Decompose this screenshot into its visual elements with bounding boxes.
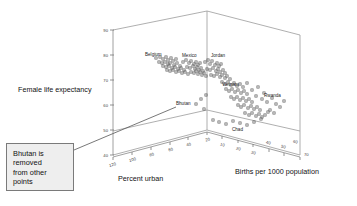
data-point xyxy=(199,62,201,64)
z-axis-births: 10 20 30 40 50 60 70 Births per 1000 pop… xyxy=(207,132,319,176)
data-point xyxy=(204,61,206,63)
data-point xyxy=(166,69,168,71)
data-point xyxy=(225,88,227,90)
z-tick-20: 20 xyxy=(235,146,241,152)
data-point xyxy=(210,74,212,76)
point-label-mexico: Mexico xyxy=(182,53,197,58)
data-point xyxy=(261,98,263,100)
data-point xyxy=(264,114,266,116)
data-point xyxy=(236,96,238,98)
data-point xyxy=(283,100,285,102)
data-point xyxy=(207,59,209,61)
plot-box-frame xyxy=(113,11,300,155)
x-axis-title: Percent urban xyxy=(118,174,163,183)
y-tick-80: 80 xyxy=(103,53,108,58)
data-point xyxy=(221,74,223,76)
callout-line-4: points xyxy=(13,177,67,186)
x-tick-60: 60 xyxy=(168,146,174,152)
data-point xyxy=(162,65,164,67)
data-point xyxy=(251,112,253,114)
data-point xyxy=(228,90,230,92)
data-point xyxy=(161,62,163,64)
data-point xyxy=(246,93,248,95)
data-point xyxy=(273,112,275,114)
data-point xyxy=(212,67,214,69)
data-point xyxy=(243,104,245,106)
data-point xyxy=(275,103,277,105)
data-point xyxy=(178,70,180,72)
data-point xyxy=(175,71,177,73)
data-point xyxy=(242,97,244,99)
data-point xyxy=(266,101,268,103)
data-point xyxy=(186,66,188,68)
data-point xyxy=(180,67,182,69)
data-point xyxy=(164,61,166,63)
x-axis-percent-urban: 120 100 80 60 40 20 Percent urban xyxy=(109,132,212,183)
data-point xyxy=(251,101,253,103)
data-point xyxy=(219,71,221,73)
data-point xyxy=(246,82,248,84)
data-point xyxy=(170,57,172,59)
data-point xyxy=(269,109,271,111)
data-point xyxy=(239,99,241,101)
data-point xyxy=(225,123,227,125)
data-point xyxy=(224,72,226,74)
z-tick-50: 50 xyxy=(280,144,286,150)
data-point xyxy=(239,122,241,124)
data-point xyxy=(279,106,281,108)
data-point xyxy=(203,72,205,74)
data-point xyxy=(259,109,261,111)
data-point xyxy=(222,69,224,71)
data-point xyxy=(192,65,194,67)
y-tick-50: 50 xyxy=(103,128,108,133)
z-tick-60: 60 xyxy=(292,139,298,145)
data-point xyxy=(190,60,192,62)
z-axis-title: Births per 1000 population xyxy=(235,167,319,176)
data-point xyxy=(172,69,174,71)
bhutan-annotation-box: Bhutan is removed from other points xyxy=(6,143,74,191)
data-point xyxy=(248,114,250,116)
data-point xyxy=(251,89,253,91)
data-point xyxy=(175,58,177,60)
data-point xyxy=(239,83,241,85)
data-point xyxy=(195,103,197,105)
data-point xyxy=(247,107,249,109)
data-point xyxy=(260,118,262,120)
x-tick-120: 120 xyxy=(109,161,118,168)
y-axis-title: Female life expectancy xyxy=(18,85,92,94)
data-point xyxy=(250,105,252,107)
y-tick-60: 60 xyxy=(103,103,108,108)
data-point xyxy=(253,108,255,110)
data-point xyxy=(255,95,257,97)
bhutan-data-point xyxy=(203,108,205,110)
data-point xyxy=(229,78,231,80)
data-point xyxy=(240,92,242,94)
data-point xyxy=(255,115,257,117)
callout-line-2: removed xyxy=(13,158,67,167)
data-point xyxy=(216,62,218,64)
callout-leader-line xyxy=(74,107,176,150)
data-point xyxy=(185,59,187,61)
data-point xyxy=(184,71,186,73)
data-point xyxy=(256,106,258,108)
point-label-jordan: Jordan xyxy=(211,53,225,58)
data-point xyxy=(172,60,174,62)
data-point xyxy=(196,66,198,68)
data-point xyxy=(199,71,201,73)
x-tick-100: 100 xyxy=(129,156,138,163)
data-point xyxy=(240,106,242,108)
point-label-bhutan: Bhutan xyxy=(176,101,191,106)
data-point xyxy=(187,73,189,75)
z-tick-10: 10 xyxy=(219,142,225,148)
data-point xyxy=(168,65,170,67)
data-point xyxy=(230,96,232,98)
data-point xyxy=(257,86,259,88)
x-tick-80: 80 xyxy=(149,151,155,157)
y-tick-70: 70 xyxy=(103,78,108,83)
data-point xyxy=(205,94,207,96)
data-point xyxy=(217,68,219,70)
data-point xyxy=(205,75,207,77)
data-point xyxy=(243,90,245,92)
data-point xyxy=(211,60,213,62)
data-point xyxy=(195,61,197,63)
